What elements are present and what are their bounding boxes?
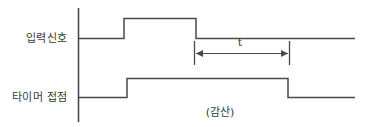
duration-value-label: t [225,36,255,49]
timer-contact-label: 타이머 접점 [0,88,72,104]
timer-contact-trace [78,79,355,98]
timing-diagram: 입력신호 타이머 접점 t (감산) [0,0,370,127]
duration-left-arrowhead [196,50,203,57]
input-signal-label: 입력신호 [0,29,72,45]
diagram-caption: (감산) [150,103,290,119]
input-signal-trace [78,19,355,39]
duration-right-arrowhead [281,50,288,57]
input-signal-waveform [78,19,355,39]
timer-contact-waveform [78,79,355,98]
